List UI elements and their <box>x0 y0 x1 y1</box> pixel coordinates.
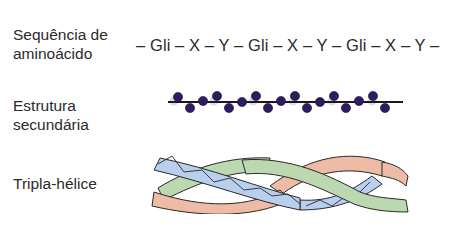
triple-helix-diagram <box>150 148 430 214</box>
secondary-structure-bead-chain <box>160 88 410 118</box>
salmon-strand-end <box>382 162 408 186</box>
bead-icons <box>173 91 389 112</box>
label-line: Sequência de <box>13 25 108 44</box>
label-amino-acid-sequence: Sequência de aminoácido <box>13 25 108 63</box>
label-triple-helix: Tripla-hélice <box>13 174 97 193</box>
amino-acid-sequence: – Gli – X – Y – Gli – X – Y – Gli – X – … <box>136 35 439 55</box>
label-line: Estrutura <box>13 96 89 115</box>
label-secondary-structure: Estrutura secundária <box>13 96 89 134</box>
label-line: Tripla-hélice <box>13 174 97 193</box>
label-line: secundária <box>13 115 89 134</box>
label-line: aminoácido <box>13 44 108 63</box>
